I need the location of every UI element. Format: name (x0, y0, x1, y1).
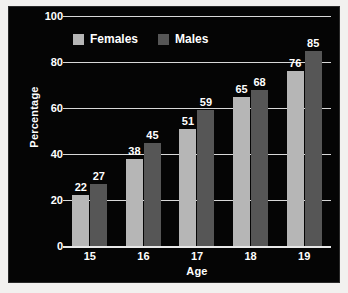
y-tick-label: 100 (17, 11, 63, 22)
bar-group-17: 5159 (170, 16, 224, 246)
bar-males-age-17[interactable]: 59 (197, 110, 214, 246)
bar-value-label: 76 (289, 58, 301, 69)
x-tick-label-18: 18 (244, 250, 256, 262)
bar-males-age-19[interactable]: 85 (305, 51, 322, 247)
y-tick-label: 60 (17, 103, 63, 114)
x-tick-label-15: 15 (84, 250, 96, 262)
legend-label: Females (90, 33, 138, 45)
bar-females-age-19[interactable]: 76 (287, 71, 304, 246)
y-tick-label: 40 (17, 149, 63, 160)
x-tick-label-16: 16 (137, 250, 149, 262)
bar-value-label: 65 (235, 84, 247, 95)
y-tick-label: 20 (17, 195, 63, 206)
chart-legend: FemalesMales (73, 33, 208, 45)
chart-panel: Percentage 020406080100 2227384551596568… (8, 6, 340, 283)
y-tick-label: 0 (17, 241, 63, 252)
bar-group-18: 6568 (224, 16, 278, 246)
bar-value-label: 38 (128, 146, 140, 157)
bar-males-age-16[interactable]: 45 (144, 143, 161, 247)
bar-value-label: 68 (253, 77, 265, 88)
bars-layer: 22273845515965687685 (63, 16, 331, 246)
plot-area: 22273845515965687685 (63, 16, 331, 246)
bar-value-label: 27 (93, 171, 105, 182)
y-tick-label: 80 (17, 57, 63, 68)
bar-females-age-17[interactable]: 51 (179, 129, 196, 246)
bar-value-label: 85 (307, 38, 319, 49)
bar-value-label: 59 (200, 97, 212, 108)
bar-males-age-15[interactable]: 27 (90, 184, 107, 246)
bar-group-15: 2227 (63, 16, 117, 246)
bar-group-19: 7685 (277, 16, 331, 246)
bar-females-age-18[interactable]: 65 (233, 97, 250, 247)
bar-value-label: 45 (146, 130, 158, 141)
chart-figure: Percentage 020406080100 2227384551596568… (0, 0, 348, 293)
x-tick-label-17: 17 (191, 250, 203, 262)
bar-value-label: 51 (182, 116, 194, 127)
legend-swatch-females-icon (73, 34, 84, 45)
bar-value-label: 22 (75, 182, 87, 193)
legend-entry-males[interactable]: Males (158, 33, 208, 45)
legend-entry-females[interactable]: Females (73, 33, 138, 45)
bar-females-age-16[interactable]: 38 (126, 159, 143, 246)
x-axis-title: Age (63, 265, 331, 277)
y-axis-tick-labels: 020406080100 (9, 7, 63, 282)
legend-swatch-males-icon (158, 34, 169, 45)
bar-females-age-15[interactable]: 22 (72, 195, 89, 246)
bar-group-16: 3845 (117, 16, 171, 246)
x-tick-label-19: 19 (298, 250, 310, 262)
x-axis-tick-labels: 1516171819 (63, 250, 331, 266)
gridline-0 (63, 246, 331, 248)
legend-label: Males (175, 33, 208, 45)
bar-males-age-18[interactable]: 68 (251, 90, 268, 246)
